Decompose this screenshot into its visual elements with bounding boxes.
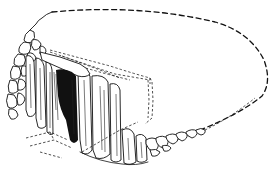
orthostat-6 xyxy=(110,84,121,162)
ground-plan xyxy=(26,132,72,158)
chamber-outline-side xyxy=(145,78,153,124)
orthostat-3 xyxy=(46,62,53,135)
drawing-canvas xyxy=(0,0,278,177)
kerb-stones xyxy=(146,129,205,157)
chamber-entrance xyxy=(56,69,78,143)
cairn-top-edge xyxy=(30,12,52,30)
tomb-illustration xyxy=(0,0,278,177)
